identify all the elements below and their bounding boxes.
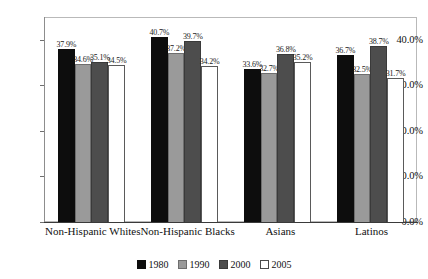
bar-slot: 35.2% <box>294 17 311 222</box>
bar-slot: 31.7% <box>387 17 404 222</box>
bar-slot: 36.8% <box>277 17 294 222</box>
bar-value-label: 34.5% <box>107 56 127 65</box>
legend-item-2000[interactable]: 2000 <box>219 259 251 270</box>
bar-slot: 34.5% <box>108 17 125 222</box>
bar-value-label: 38.7% <box>369 37 389 46</box>
legend-swatch-icon <box>260 260 269 269</box>
bar-slot: 37.9% <box>58 17 75 222</box>
bar-1980[interactable]: 37.9% <box>58 49 75 222</box>
legend-swatch-icon <box>137 260 146 269</box>
bar-group-non-hispanic-whites: 37.9% 34.6% 35.1% 34.5% <box>45 17 138 222</box>
chart-legend: 1980 1990 2000 2005 <box>0 259 428 270</box>
bar-slot: 38.7% <box>370 17 387 222</box>
category-label-non-hispanic-blacks: Non-Hispanic Blacks <box>140 225 234 238</box>
x-axis-line <box>44 222 418 223</box>
legend-swatch-icon <box>219 260 228 269</box>
bar-value-label: 32.7% <box>259 64 279 73</box>
category-label-non-hispanic-whites: Non-Hispanic Whites <box>45 225 140 238</box>
legend-label: 2000 <box>231 259 251 270</box>
bar-value-label: 31.7% <box>386 69 406 78</box>
legend-item-1980[interactable]: 1980 <box>137 259 169 270</box>
bar-1980[interactable]: 40.7% <box>151 37 168 222</box>
bar-group-asians: 33.6% 32.7% 36.8% 35.2% <box>231 17 324 222</box>
bar-group-latinos: 36.7% 32.5% 38.7% 31.7% <box>324 17 417 222</box>
bar-1990[interactable]: 32.5% <box>354 74 371 222</box>
legend-label: 1980 <box>149 259 169 270</box>
bar-2000[interactable]: 35.1% <box>91 62 108 222</box>
legend-item-1990[interactable]: 1990 <box>178 259 210 270</box>
bar-slot: 37.2% <box>168 17 185 222</box>
bar-2000[interactable]: 39.7% <box>184 41 201 222</box>
bar-value-label: 37.2% <box>166 44 186 53</box>
bar-2005[interactable]: 35.2% <box>294 62 311 222</box>
bar-1990[interactable]: 34.6% <box>75 64 92 222</box>
bar-slot: 34.2% <box>201 17 218 222</box>
bar-2000[interactable]: 36.8% <box>277 54 294 222</box>
bar-groups: 37.9% 34.6% 35.1% 34.5% <box>45 17 417 222</box>
category-label-asians: Asians <box>235 225 326 238</box>
bar-2000[interactable]: 38.7% <box>370 46 387 222</box>
bar-1980[interactable]: 36.7% <box>337 55 354 222</box>
bar-chart: 0.0% 10.0% 20.0% 30.0% 40.0% 37.9% 34.6% <box>0 0 428 279</box>
legend-label: 2005 <box>272 259 292 270</box>
bar-value-label: 37.9% <box>57 40 77 49</box>
bar-1980[interactable]: 33.6% <box>244 69 261 222</box>
bar-1990[interactable]: 32.7% <box>261 73 278 222</box>
bar-value-label: 35.2% <box>293 53 313 62</box>
legend-label: 1990 <box>190 259 210 270</box>
bar-slot: 39.7% <box>184 17 201 222</box>
bar-slot: 33.6% <box>244 17 261 222</box>
bar-2005[interactable]: 34.2% <box>201 66 218 222</box>
legend-item-2005[interactable]: 2005 <box>260 259 292 270</box>
bar-value-label: 32.5% <box>352 65 372 74</box>
x-axis-category-labels: Non-Hispanic Whites Non-Hispanic Blacks … <box>45 225 417 238</box>
bar-slot: 35.1% <box>91 17 108 222</box>
legend-swatch-icon <box>178 260 187 269</box>
bar-value-label: 40.7% <box>150 28 170 37</box>
bar-slot: 34.6% <box>75 17 92 222</box>
bar-slot: 36.7% <box>337 17 354 222</box>
bar-value-label: 36.7% <box>336 46 356 55</box>
bar-value-label: 34.2% <box>200 57 220 66</box>
bar-value-label: 39.7% <box>183 32 203 41</box>
bar-1990[interactable]: 37.2% <box>168 53 185 222</box>
bar-slot: 32.5% <box>354 17 371 222</box>
bar-slot: 40.7% <box>151 17 168 222</box>
bar-2005[interactable]: 34.5% <box>108 65 125 222</box>
bar-group-non-hispanic-blacks: 40.7% 37.2% 39.7% 34.2% <box>138 17 231 222</box>
bar-2005[interactable]: 31.7% <box>387 78 404 222</box>
category-label-latinos: Latinos <box>326 225 417 238</box>
bar-slot: 32.7% <box>261 17 278 222</box>
